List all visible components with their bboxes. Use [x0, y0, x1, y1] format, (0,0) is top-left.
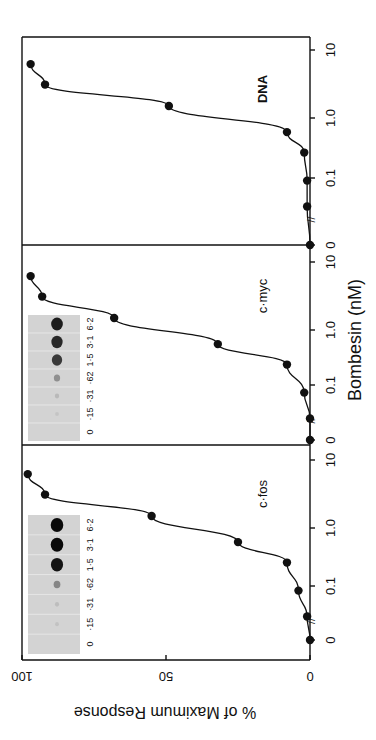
blot-dot: [51, 318, 63, 331]
data-point: [147, 512, 155, 520]
y-tick-label: 0: [306, 669, 313, 684]
blot-dot: [55, 622, 59, 626]
data-point: [306, 414, 314, 422]
data-point: [306, 241, 314, 249]
blot-lane-label: 0: [85, 429, 95, 434]
blot-lane-label: ·31: [85, 598, 95, 611]
x-tick-label: 10: [323, 43, 338, 57]
data-point: [234, 538, 242, 546]
blot-lane-label: 0: [85, 642, 95, 647]
blot-lane-label: ·31: [85, 389, 95, 402]
data-point: [303, 612, 311, 620]
data-point: [26, 60, 34, 68]
data-point: [38, 292, 46, 300]
y-axis-title: % of Maximum Response: [74, 704, 256, 721]
panel-label: c·myc: [255, 278, 270, 313]
dose-response-chart: 00.11.010//c·fos0·15·31·621·53·16·200.11…: [0, 0, 376, 740]
panel-label: DNA: [255, 74, 270, 103]
blot-lane-label: 3·1: [85, 335, 95, 348]
data-point: [303, 176, 311, 184]
blot-lane-label: 6·2: [85, 317, 95, 330]
x-axis-title: Bombesin (nM): [345, 279, 365, 401]
blot-dot: [54, 581, 61, 589]
blot-lane-label: 1·5: [85, 558, 95, 571]
x-tick-label: 1.0: [323, 519, 338, 537]
data-point: [283, 360, 291, 368]
x-tick-label: 0: [323, 436, 338, 443]
x-tick-label: 0.1: [323, 376, 338, 394]
data-point: [214, 340, 222, 348]
x-tick-label: 10: [323, 453, 338, 467]
blot-dot: [55, 602, 59, 607]
blot-dot: [51, 538, 64, 552]
x-tick-label: 10: [323, 255, 338, 269]
blot-lane-label: 6·2: [85, 518, 95, 531]
data-point: [24, 470, 32, 478]
data-point: [306, 436, 314, 444]
y-tick-label: 100: [11, 669, 33, 684]
blot-lane-label: ·15: [85, 407, 95, 420]
blot-dot: [55, 412, 59, 416]
data-point: [283, 558, 291, 566]
blot-lane-label: ·15: [85, 618, 95, 631]
y-tick-label: 50: [159, 669, 173, 684]
blot-dot: [54, 375, 60, 382]
data-point: [306, 636, 314, 644]
panel-c-fos: 00.11.010//c·fos0·15·31·621·53·16·2: [22, 445, 338, 654]
x-tick-label: 1.0: [323, 109, 338, 127]
data-point: [110, 314, 118, 322]
figure: 00.11.010//c·fos0·15·31·621·53·16·200.11…: [0, 0, 376, 740]
x-tick-label: 0: [323, 636, 338, 643]
blot-lane-label: 1·5: [85, 353, 95, 366]
data-point: [300, 388, 308, 396]
blot-dot: [51, 518, 64, 532]
panel-DNA: 00.11.010//DNA: [22, 37, 338, 249]
blot-dot: [51, 336, 62, 349]
blot-lane-label: ·62: [85, 578, 95, 591]
axis-break-marker: //: [305, 216, 317, 223]
blot-dot: [51, 558, 63, 572]
panel-c-myc: 00.11.010//c·myc0·15·31·621·53·16·2: [22, 245, 338, 444]
data-point: [41, 490, 49, 498]
x-tick-label: 0: [323, 241, 338, 248]
data-point: [165, 102, 173, 110]
x-tick-label: 0.1: [323, 169, 338, 187]
data-point: [294, 586, 302, 594]
blot-lane-label: 3·1: [85, 538, 95, 551]
data-point: [41, 80, 49, 88]
data-point: [26, 272, 34, 280]
data-point: [300, 148, 308, 156]
data-point: [303, 202, 311, 210]
panel-label: c·fos: [255, 479, 270, 508]
x-tick-label: 1.0: [323, 321, 338, 339]
x-tick-label: 0.1: [323, 577, 338, 595]
blot-lane-label: ·62: [85, 371, 95, 384]
data-point: [283, 128, 291, 136]
blot-dot: [52, 354, 62, 366]
blot-dot: [55, 394, 59, 399]
